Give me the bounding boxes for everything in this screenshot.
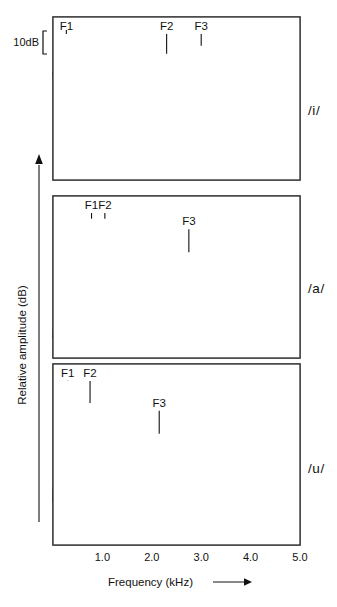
plot-frame: [53, 196, 300, 358]
bracket-shape: [43, 31, 47, 54]
x-axis-title: Frequency (kHz): [108, 576, 193, 588]
db-scale-bracket: 10dB: [13, 31, 47, 54]
spectrum-panel-i: F1F2F3/i/: [53, 17, 320, 180]
formant-label: F2: [83, 367, 96, 379]
vowel-symbol-label: /u/: [308, 461, 325, 476]
vowel-symbol-label: /a/: [308, 281, 325, 296]
y-axis-arrowhead: [35, 154, 43, 164]
y-axis-title: Relative amplitude (dB): [16, 285, 28, 405]
vowel-spectra-figure: F1F2F3/i/F1F2F3/a/F1F2F3/u/ 10dB Relativ…: [0, 0, 337, 607]
formant-label: F1: [85, 199, 98, 211]
formant-label: F3: [194, 20, 207, 32]
formant-label: F3: [152, 397, 165, 409]
x-tick-label: 2.0: [144, 551, 159, 563]
panel-group: F1F2F3/i/F1F2F3/a/F1F2F3/u/: [53, 17, 325, 545]
formant-label: F2: [98, 199, 111, 211]
y-axis: Relative amplitude (dB): [16, 154, 43, 522]
formant-annotation-F1: F1: [61, 367, 74, 381]
x-tick-label: 5.0: [292, 551, 307, 563]
db-scale-label: 10dB: [13, 36, 39, 48]
formant-annotation-F1: F1: [60, 20, 73, 34]
x-axis-title-group: Frequency (kHz): [108, 576, 252, 588]
x-tick-label: 3.0: [194, 551, 209, 563]
formant-label: F1: [61, 367, 74, 379]
formant-label: F1: [60, 20, 73, 32]
x-tick-label: 1.0: [95, 551, 110, 563]
formant-label: F2: [160, 20, 173, 32]
spectrum-panel-u: F1F2F3/u/: [53, 364, 325, 545]
formant-label: F3: [182, 215, 195, 227]
figure-canvas: F1F2F3/i/F1F2F3/a/F1F2F3/u/ 10dB Relativ…: [0, 0, 337, 607]
vowel-symbol-label: /i/: [308, 103, 320, 118]
spectrum-panel-a: F1F2F3/a/: [53, 196, 325, 358]
x-axis-arrowhead: [244, 578, 252, 585]
plot-frame: [53, 17, 300, 180]
x-tick-labels: 1.02.03.04.05.0: [95, 551, 308, 563]
x-tick-label: 4.0: [243, 551, 258, 563]
